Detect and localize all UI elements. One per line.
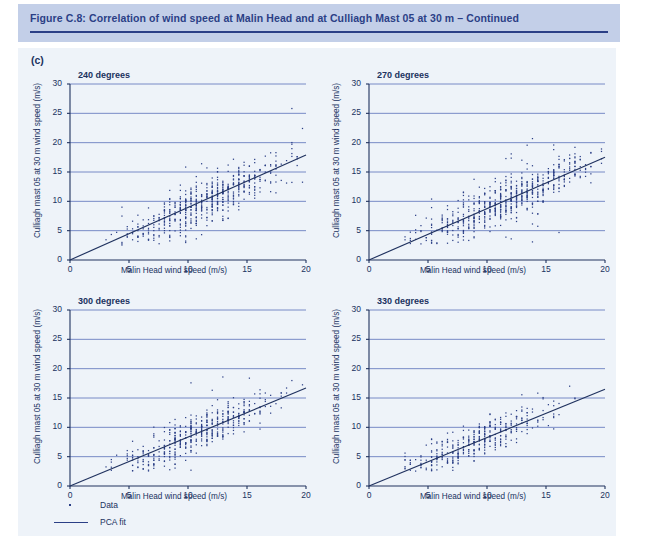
- y-tick-label: 5: [42, 225, 62, 235]
- pca-fit-line: [369, 157, 605, 260]
- legend-label-pca-fit: PCA fit: [100, 517, 126, 527]
- data-point-marker-icon: [69, 504, 71, 506]
- y-tick-label: 15: [341, 166, 361, 176]
- subplot-330-degrees: 330 degrees05101520253005101520Culliagh …: [317, 296, 616, 524]
- x-axis-label: Malin Head wind speed (m/s): [353, 266, 593, 275]
- figure-header-band: Figure C.8: Correlation of wind speed at…: [18, 4, 620, 42]
- subplot-300-degrees: 300 degrees05101520253005101520Culliagh …: [18, 296, 317, 524]
- y-tick-label: 0: [341, 480, 361, 490]
- x-tick-label: 20: [595, 264, 615, 274]
- y-tick-label: 20: [42, 363, 62, 373]
- y-tick-label: 30: [42, 304, 62, 314]
- y-tick-label: 30: [42, 78, 62, 88]
- gridlines: [70, 310, 306, 457]
- y-tick-label: 0: [42, 480, 62, 490]
- y-tick-label: 10: [42, 421, 62, 431]
- subplot-240-degrees: 240 degrees05101520253005101520Culliagh …: [18, 70, 317, 298]
- y-tick-label: 20: [42, 137, 62, 147]
- y-tick-label: 15: [42, 392, 62, 402]
- y-tick-label: 25: [42, 333, 62, 343]
- gridlines: [70, 84, 306, 231]
- y-tick-label: 15: [42, 166, 62, 176]
- pca-fit-line: [369, 389, 605, 486]
- y-tick-label: 25: [341, 333, 361, 343]
- y-axis-label: Culliagh mast 05 at 30 m wind speed (m/s…: [332, 73, 341, 248]
- y-tick-label: 10: [341, 195, 361, 205]
- gridlines: [369, 310, 605, 457]
- y-tick-label: 25: [42, 107, 62, 117]
- figure-title: Figure C.8: Correlation of wind speed at…: [30, 12, 519, 24]
- data-points: [404, 138, 602, 245]
- y-tick-label: 0: [42, 254, 62, 264]
- data-points: [105, 108, 303, 246]
- pca-fit-line: [70, 388, 306, 486]
- y-tick-label: 30: [341, 304, 361, 314]
- data-points: [404, 386, 575, 472]
- axis-ticks: [366, 310, 605, 489]
- x-axis-label: Malin Head wind speed (m/s): [54, 266, 294, 275]
- legend-key-pca-fit: [52, 515, 92, 529]
- legend-key-data: [52, 498, 92, 512]
- y-tick-label: 10: [341, 421, 361, 431]
- x-tick-label: 20: [296, 490, 316, 500]
- panel-letter: (c): [31, 54, 44, 66]
- y-tick-label: 0: [341, 254, 361, 264]
- y-tick-label: 30: [341, 78, 361, 88]
- x-axis-label: Malin Head wind speed (m/s): [353, 492, 593, 501]
- y-tick-label: 20: [341, 137, 361, 147]
- fit-line-marker-icon: [54, 522, 88, 523]
- x-tick-label: 20: [595, 490, 615, 500]
- subplot-270-degrees: 270 degrees05101520253005101520Culliagh …: [317, 70, 616, 298]
- x-tick-label: 20: [296, 264, 316, 274]
- pca-fit-line: [70, 155, 306, 260]
- y-tick-label: 5: [42, 451, 62, 461]
- y-tick-label: 25: [341, 107, 361, 117]
- data-points: [105, 376, 303, 471]
- y-tick-label: 15: [341, 392, 361, 402]
- y-tick-label: 5: [341, 451, 361, 461]
- y-axis-label: Culliagh mast 05 at 30 m wind speed (m/s…: [33, 73, 42, 248]
- y-tick-label: 10: [42, 195, 62, 205]
- y-axis-label: Culliagh mast 05 at 30 m wind speed (m/s…: [33, 299, 42, 474]
- figure-body-panel: (c) 240 degrees05101520253005101520Culli…: [18, 48, 616, 536]
- figure-title-rule: [30, 31, 608, 33]
- axis-ticks: [67, 310, 306, 489]
- y-axis-label: Culliagh mast 05 at 30 m wind speed (m/s…: [332, 299, 341, 474]
- y-tick-label: 20: [341, 363, 361, 373]
- y-tick-label: 5: [341, 225, 361, 235]
- legend-label-data: Data: [100, 500, 118, 510]
